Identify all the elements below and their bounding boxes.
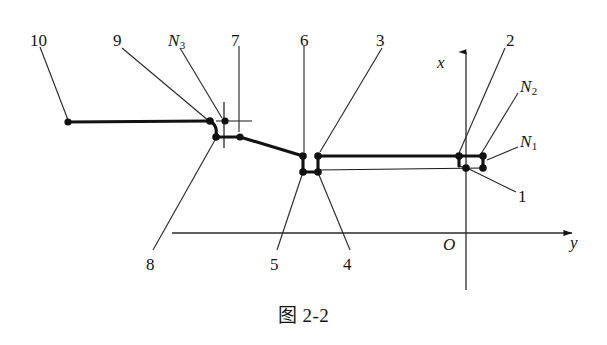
node-N1: [479, 164, 487, 172]
figure-container: 10 9 N3 7 6 3 2 N2 N1 1 8 5 4 x y O 图 2-…: [0, 0, 607, 345]
node-N3: [221, 117, 228, 124]
callout-label-N2-base: N: [520, 77, 531, 96]
callout-label-8: 8: [146, 256, 155, 273]
coordinate-axes: [172, 52, 572, 290]
leader-5: [277, 175, 302, 250]
node-7: [236, 133, 243, 140]
callout-label-1: 1: [518, 188, 527, 205]
callout-label-2: 2: [506, 32, 515, 49]
callout-label-N1-sub: 1: [532, 140, 538, 152]
node-5: [299, 168, 307, 176]
figure-caption: 图 2-2: [0, 300, 607, 327]
callout-label-N2-sub: 2: [532, 85, 538, 97]
structure-members: [68, 121, 483, 172]
node-6: [299, 152, 307, 160]
leader-9: [122, 48, 209, 121]
callout-label-5: 5: [270, 256, 279, 273]
callout-label-4: 4: [343, 256, 352, 273]
axis-label-x: x: [437, 54, 445, 71]
node-10: [64, 118, 71, 125]
axis-label-origin: O: [443, 236, 455, 253]
node-N2: [479, 152, 487, 160]
callout-label-N3: N3: [168, 32, 185, 51]
callout-label-N3-base: N: [168, 31, 179, 50]
structure-thin-chords: [216, 102, 483, 170]
callout-label-3: 3: [376, 32, 385, 49]
callout-label-N1: N1: [520, 133, 537, 152]
callout-label-7: 7: [231, 32, 240, 49]
leader-1: [467, 168, 516, 192]
chord-4-1: [318, 168, 483, 170]
member-10-9: [68, 121, 208, 122]
node-9: [206, 117, 214, 125]
callout-label-9: 9: [113, 32, 122, 49]
callout-label-6: 6: [300, 32, 309, 49]
leader-N2: [481, 93, 518, 154]
node-4: [314, 168, 322, 176]
member-7-6: [240, 137, 303, 156]
callout-label-N3-sub: 3: [180, 39, 186, 51]
leader-10: [40, 47, 68, 120]
callout-label-N2: N2: [520, 78, 537, 97]
node-3: [314, 152, 322, 160]
leader-4: [319, 175, 350, 250]
node-1: [462, 164, 470, 172]
axis-label-y: y: [570, 234, 578, 251]
leader-3: [320, 48, 382, 152]
diagram-canvas: [0, 0, 607, 345]
callout-label-N1-base: N: [520, 132, 531, 151]
node-8: [212, 133, 220, 141]
callout-label-10: 10: [30, 32, 47, 49]
leader-N3: [180, 48, 222, 118]
node-2: [455, 152, 463, 160]
leader-N1: [487, 147, 518, 160]
